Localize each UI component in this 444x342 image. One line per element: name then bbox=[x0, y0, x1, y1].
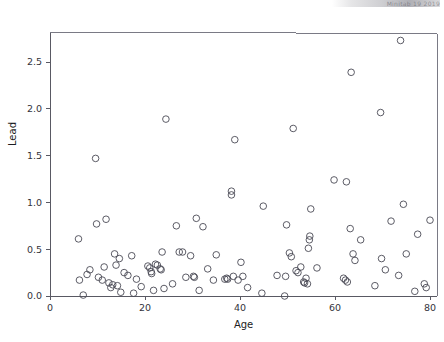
data-point bbox=[244, 284, 251, 291]
data-point bbox=[150, 287, 157, 294]
data-point bbox=[80, 292, 87, 299]
data-point bbox=[293, 267, 300, 274]
scatter-plot-figure: Minitab 19 2019 020406080 0.00.51.01.52.… bbox=[0, 0, 444, 342]
data-point bbox=[412, 288, 419, 295]
data-point bbox=[414, 231, 421, 238]
data-point bbox=[307, 233, 314, 240]
data-point bbox=[314, 265, 321, 272]
data-points bbox=[75, 37, 433, 299]
x-tick-label: 80 bbox=[424, 302, 436, 313]
data-point bbox=[76, 277, 83, 284]
data-point bbox=[282, 273, 289, 280]
data-point bbox=[231, 136, 238, 143]
data-point bbox=[238, 259, 245, 266]
data-point bbox=[307, 206, 314, 213]
y-axis-title: Lead bbox=[7, 122, 18, 146]
data-point bbox=[388, 218, 395, 225]
data-point bbox=[283, 222, 290, 229]
data-point bbox=[117, 289, 124, 296]
data-point bbox=[200, 223, 207, 230]
data-point bbox=[210, 277, 217, 284]
data-point bbox=[343, 179, 350, 186]
data-point bbox=[183, 274, 190, 281]
data-point bbox=[427, 217, 434, 224]
y-tick-label: 1.5 bbox=[27, 150, 42, 161]
data-point bbox=[344, 279, 351, 286]
x-tick-labels: 020406080 bbox=[47, 302, 436, 313]
data-point bbox=[382, 266, 389, 273]
y-tick-label: 2.5 bbox=[27, 56, 42, 67]
data-point bbox=[274, 272, 281, 279]
data-point bbox=[377, 109, 384, 116]
data-point bbox=[342, 277, 349, 284]
data-point bbox=[114, 282, 121, 289]
data-point bbox=[352, 257, 359, 264]
data-point bbox=[75, 236, 82, 243]
data-point bbox=[348, 69, 355, 76]
data-point bbox=[372, 282, 379, 289]
data-point bbox=[347, 225, 354, 232]
x-axis-title: Age bbox=[234, 319, 253, 330]
data-point bbox=[286, 250, 293, 257]
data-point bbox=[230, 273, 237, 280]
data-point bbox=[213, 252, 220, 259]
y-tick-label: 1.0 bbox=[27, 197, 42, 208]
data-point bbox=[163, 116, 170, 123]
data-point bbox=[288, 253, 295, 260]
data-point bbox=[173, 223, 180, 230]
data-point bbox=[161, 285, 168, 292]
data-point bbox=[204, 266, 211, 273]
data-point bbox=[378, 255, 385, 262]
data-point bbox=[403, 251, 410, 258]
data-point bbox=[113, 262, 120, 269]
data-point bbox=[305, 245, 312, 252]
data-point bbox=[103, 216, 110, 223]
data-point bbox=[298, 264, 305, 271]
x-tick-label: 60 bbox=[329, 302, 341, 313]
data-point bbox=[93, 221, 100, 228]
data-point bbox=[92, 155, 99, 162]
data-point bbox=[133, 276, 140, 283]
data-point bbox=[397, 37, 404, 44]
data-point bbox=[331, 177, 338, 184]
data-point bbox=[340, 275, 347, 282]
data-point bbox=[128, 252, 135, 259]
x-tick-label: 0 bbox=[47, 302, 53, 313]
x-tick-label: 40 bbox=[234, 302, 246, 313]
data-point bbox=[187, 252, 194, 259]
y-tick-label: 0.5 bbox=[27, 244, 42, 255]
data-point bbox=[357, 237, 364, 244]
data-point bbox=[138, 283, 145, 290]
y-tick-labels: 0.00.51.01.52.02.5 bbox=[27, 56, 42, 301]
data-point bbox=[400, 201, 407, 208]
data-point bbox=[116, 255, 123, 262]
y-tick-label: 2.0 bbox=[27, 103, 42, 114]
x-tick-label: 20 bbox=[139, 302, 151, 313]
data-point bbox=[196, 287, 203, 294]
data-point bbox=[169, 281, 176, 288]
data-point bbox=[235, 277, 242, 284]
plot-canvas: 020406080 0.00.51.01.52.02.5 Age Lead bbox=[0, 0, 444, 342]
data-point bbox=[159, 249, 166, 256]
data-point bbox=[350, 251, 357, 258]
data-point bbox=[421, 281, 428, 288]
data-point bbox=[101, 264, 108, 271]
data-point bbox=[240, 273, 247, 280]
data-point bbox=[423, 284, 430, 291]
data-point bbox=[395, 272, 402, 279]
y-tick-label: 0.0 bbox=[27, 290, 42, 301]
data-point bbox=[290, 125, 297, 132]
data-point bbox=[260, 203, 267, 210]
data-point bbox=[193, 215, 200, 222]
